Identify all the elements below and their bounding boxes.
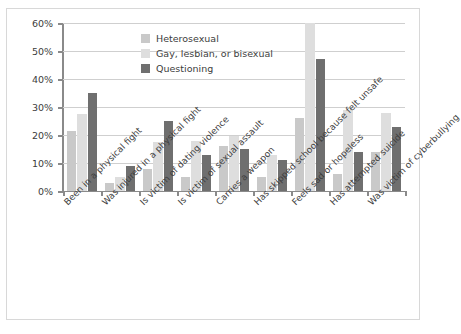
y-axis-tick-label: 60% [32,18,53,29]
x-axis-tick [177,191,179,196]
x-axis-tick [253,191,255,196]
y-axis-tick [58,51,63,53]
legend-item: Heterosexual [141,31,273,46]
x-axis-tick [63,191,65,196]
y-axis-tick-label: 50% [32,46,53,57]
bar [305,23,315,191]
y-axis-tick-label: 0% [38,186,53,197]
y-axis-tick [58,107,63,109]
y-axis-tick [58,79,63,81]
legend-swatch-icon [141,49,150,58]
legend-item: Gay, lesbian, or bisexual [141,46,273,61]
y-axis-tick [58,135,63,137]
y-axis-tick-label: 40% [32,74,53,85]
legend-swatch-icon [141,64,150,73]
legend-label: Gay, lesbian, or bisexual [156,48,273,59]
x-axis-tick [329,191,331,196]
x-axis-tick [405,191,407,196]
y-axis-tick-label: 30% [32,102,53,113]
x-axis-tick [101,191,103,196]
bar-group [67,23,98,191]
y-axis-tick [58,23,63,25]
x-axis-tick [139,191,141,196]
x-axis-tick [215,191,217,196]
chart-legend: HeterosexualGay, lesbian, or bisexualQue… [141,31,273,76]
legend-item: Questioning [141,61,273,76]
y-axis-tick-label: 20% [32,130,53,141]
y-axis-tick-label: 10% [32,158,53,169]
legend-label: Questioning [156,63,213,74]
chart-canvas: 0%10%20%30%40%50%60% Been in a physical … [7,9,419,319]
legend-swatch-icon [141,34,150,43]
x-axis-tick [367,191,369,196]
chart-frame: 0%10%20%30%40%50%60% Been in a physical … [6,8,420,320]
bar [67,131,77,191]
x-axis-tick [291,191,293,196]
legend-label: Heterosexual [156,33,219,44]
y-axis-tick [58,163,63,165]
